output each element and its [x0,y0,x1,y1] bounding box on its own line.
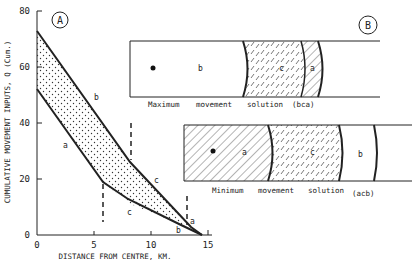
y-axis-title: CUMULATIVE MOVEMENT INPUTS, Q (Cum.) [3,41,12,204]
top-zone-a: a [310,64,315,73]
region-label-a-right: a [190,217,195,226]
bottom-zone-c: c [310,148,315,157]
bottom-caption-solution: solution [308,186,344,195]
bottom-caption-order: (acb) [352,189,375,198]
top-caption-solution: solution [247,100,283,109]
bottom-zone-b: b [358,150,363,159]
region-label-b-lower: b [176,226,181,235]
bottom-zone-a: a [242,148,247,157]
x-tick-15: 15 [203,240,214,250]
panel-a-chart [37,11,212,235]
top-caption-movement: movement [196,100,232,109]
min-movement-box [184,125,412,181]
panel-b-label: B [365,20,371,31]
top-caption-order: (bca) [292,100,315,109]
x-tick-10: 10 [146,240,157,250]
bottom-caption-minimum: Minimum [212,186,244,195]
top-zone-c: c [279,64,284,73]
region-label-c-upper: c [154,176,159,185]
panel-a-label: A [57,15,63,26]
x-axis-title: DISTANCE FROM CENTRE, KM. [59,252,172,261]
y-tick-40: 40 [19,118,30,128]
region-label-c-lower: c [127,208,132,217]
x-tick-0: 0 [34,240,39,250]
y-tick-20: 20 [19,174,30,184]
region-label-b: b [94,93,99,102]
y-tick-0: 0 [25,230,30,240]
panel-b-diagram [130,16,412,181]
max-movement-box [130,41,380,97]
top-zone-b: b [198,64,203,73]
y-tick-80: 80 [19,6,30,16]
top-caption-maximum: Maximum [148,100,180,109]
x-tick-5: 5 [91,240,96,250]
y-tick-60: 60 [19,62,30,72]
diagram: A 0 20 40 60 80 0 5 10 15 DISTANCE FROM … [0,0,416,262]
region-label-a: a [63,141,68,150]
bottom-caption-movement: movement [258,186,294,195]
